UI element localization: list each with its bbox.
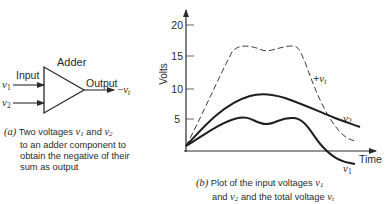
y-tick-5: 5 [174, 113, 180, 125]
caption-b: (b) Plot of the input voltages v1 and v2… [196, 177, 386, 204]
input-label: Input [16, 69, 39, 81]
voltage-plot: 20 15 10 5 Volts Time +vt v2 v1 [158, 10, 382, 176]
output-vt-label: −vt [117, 83, 131, 97]
input-v2-label: v2 [2, 96, 11, 110]
figure-canvas: Adder Input Output v1 v2 −vt 20 15 10 5 … [0, 0, 389, 204]
curve-v1 [186, 117, 355, 164]
adder-diagram: Adder Input Output v1 v2 −vt [2, 56, 131, 113]
adder-label: Adder [57, 56, 87, 68]
x-axis-label: Time [359, 153, 382, 165]
y-ticks [186, 25, 194, 119]
caption-b-tag: (b) [196, 177, 208, 188]
output-label: Output [86, 77, 118, 89]
caption-a: (a) Two voltages v1 and v2 to an adder c… [4, 126, 154, 173]
y-tick-15: 15 [171, 50, 183, 62]
caption-b-vt: vt [327, 191, 334, 202]
caption-a-line1: (a) Two voltages v1 and v2 [4, 126, 154, 140]
caption-a-line4: sum as output [4, 162, 154, 173]
input-v1-label: v1 [2, 78, 11, 92]
y-tick-20: 20 [171, 19, 183, 31]
caption-b-line1: (b) Plot of the input voltages v1 [196, 177, 386, 191]
curve-v2 [186, 94, 360, 146]
caption-a-line3: obtain the negative of their [4, 151, 154, 162]
curve-label-vt: +vt [313, 72, 327, 86]
caption-b-v2: v2 [230, 191, 238, 202]
caption-a-v2: v2 [104, 126, 112, 137]
caption-a-text: Two voltages [19, 127, 73, 137]
caption-a-tag: (a) [4, 126, 16, 137]
y-tick-10: 10 [171, 83, 183, 95]
caption-a-line2: to an adder component to [4, 140, 154, 151]
caption-b-line2: and v2 and the total voltage vt [196, 191, 386, 204]
caption-b-v1: v1 [315, 177, 323, 188]
caption-b-text: Plot of the input voltages [211, 178, 313, 188]
adder-triangle [44, 67, 84, 113]
curve-label-v2: v2 [343, 112, 352, 126]
caption-a-v1: v1 [76, 126, 84, 137]
y-axis-label: Volts [158, 63, 169, 85]
caption-a-and: and [86, 127, 102, 137]
